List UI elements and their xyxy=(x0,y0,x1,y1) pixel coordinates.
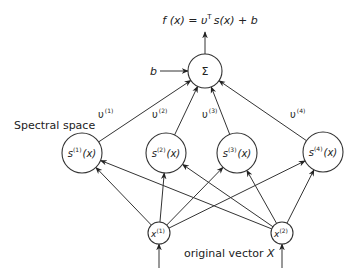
svg-text:s(2)(x): s(2)(x) xyxy=(152,146,180,159)
sum-node: Σ xyxy=(188,54,222,88)
weight-label-2: υ(2) xyxy=(152,107,167,120)
edge-input-2-to-spectral-3 xyxy=(247,170,277,223)
weight-label-1: υ(1) xyxy=(98,107,113,120)
sum-symbol: Σ xyxy=(202,65,209,78)
weight-label-4: υ(4) xyxy=(290,107,305,120)
spectral-node-1: s(1)(x) xyxy=(62,133,102,173)
edge-input-1-to-spectral-1 xyxy=(96,167,152,225)
bias-label: b xyxy=(150,65,157,78)
edge-input-1-to-spectral-3 xyxy=(167,167,223,225)
input-vector-label: original vector X xyxy=(184,247,275,260)
weight-label-3: υ(3) xyxy=(202,107,217,120)
svg-text:s(1)(x): s(1)(x) xyxy=(68,146,96,159)
spectral-node-3: s(3)(x) xyxy=(217,133,257,173)
input-node-2: x(2) xyxy=(271,222,293,244)
edge-input-1-to-spectral-2 xyxy=(160,173,164,222)
edge-input-2-to-spectral-4 xyxy=(287,170,314,223)
input-node-1: x(1) xyxy=(148,222,170,244)
svg-text:s(4)(x): s(4)(x) xyxy=(309,145,337,158)
spectral-node-2: s(2)(x) xyxy=(146,133,186,173)
spectral-node-4: s(4)(x) xyxy=(303,132,343,172)
output-formula: f (x) = υTs(x) + b xyxy=(162,13,257,27)
svg-text:s(3)(x): s(3)(x) xyxy=(223,146,251,159)
edge-spectral-2-to-sum xyxy=(175,86,198,135)
diagram-canvas: f (x) = υTs(x) + b b Σ Spectral space υ(… xyxy=(0,0,357,277)
spectral-space-label: Spectral space xyxy=(14,119,95,132)
